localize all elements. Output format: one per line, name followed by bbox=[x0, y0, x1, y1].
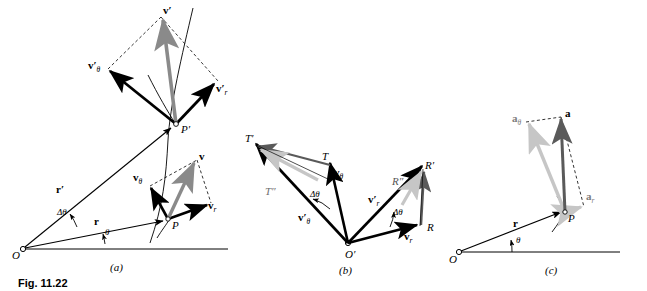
panel-a-label-origin: O bbox=[12, 250, 20, 261]
panel-a-p-parallelogram-dash-2 bbox=[197, 160, 211, 203]
panel-c-label-vector-a-theta: aθ bbox=[512, 113, 521, 127]
panel-b-label-r-double-prime: R″ bbox=[392, 176, 403, 187]
panel-a-label-vector-v-r: vr bbox=[208, 200, 216, 214]
panel-a-angle-delta-theta-arc bbox=[70, 214, 77, 227]
panel-a-p-tangent-tick bbox=[157, 220, 169, 238]
panel-a-point-pprime-marker bbox=[174, 122, 179, 127]
panel-a-vector-v-prime-theta bbox=[110, 71, 176, 124]
panel-b-label-t: T bbox=[322, 151, 328, 162]
panel-c-label-vector-a: a bbox=[565, 108, 571, 119]
panel-a-label-point-p-prime: P′ bbox=[181, 124, 190, 135]
panel-c-caption: (c) bbox=[545, 265, 557, 276]
panel-c-angle-theta-arc bbox=[511, 240, 512, 252]
panel-a-vector-v-prime-r bbox=[176, 84, 214, 124]
panel-a-label-vector-v-prime-r: v′r bbox=[216, 83, 228, 97]
panel-a-vector-v-theta bbox=[151, 188, 168, 219]
panel-c-label-origin: O bbox=[449, 254, 457, 265]
panel-b-label-angle-delta-theta-left: Δθ bbox=[310, 190, 320, 199]
panel-b-label-vector-v-r: vr bbox=[404, 231, 412, 245]
panel-a-caption: (a) bbox=[110, 262, 123, 273]
figure-caption: Fig. 11.22 bbox=[18, 277, 68, 289]
panel-c-label-angle-theta: θ bbox=[516, 236, 520, 245]
panel-b-label-angle-delta-theta-right: Δθ bbox=[393, 208, 403, 217]
panel-a-vector-r-prime bbox=[25, 128, 171, 247]
panel-c-label-point-p: P bbox=[568, 213, 575, 224]
panel-a-pprime-parallelogram-dash-1 bbox=[108, 17, 161, 69]
panel-b-label-vector-v-prime-r: v′r bbox=[368, 194, 380, 208]
panel-b-label-t-prime: T′ bbox=[245, 133, 254, 144]
panel-a-vector-v-prime bbox=[163, 20, 176, 124]
panel-c-vector-a-theta bbox=[529, 124, 565, 212]
panel-a-label-point-p: P bbox=[172, 220, 179, 231]
panel-a-label-vector-v-theta: vθ bbox=[133, 172, 142, 186]
panel-a-label-vector-r: r bbox=[94, 216, 99, 227]
panel-a-label-angle-theta: θ bbox=[105, 228, 109, 237]
panel-b-label-vector-v-prime-theta: v′θ bbox=[298, 212, 310, 226]
panel-b-caption: (b) bbox=[339, 265, 352, 276]
panel-b-label-t-double-prime: T″ bbox=[265, 186, 276, 197]
panel-c-vector-a bbox=[561, 119, 565, 212]
panel-c-parallelogram-dash-1 bbox=[526, 117, 561, 122]
panel-a-point-p-marker bbox=[166, 217, 170, 221]
panel-c-origin-marker bbox=[456, 249, 461, 254]
panel-b-label-r-prime: R′ bbox=[425, 160, 434, 171]
panel-a-label-angle-delta-theta: Δθ bbox=[57, 208, 67, 217]
panel-b-label-r: R bbox=[427, 222, 434, 233]
panel-a-label-vector-v-prime-theta: v′θ bbox=[88, 60, 100, 74]
panel-c-vector-r bbox=[461, 212, 561, 251]
panel-c bbox=[456, 117, 620, 255]
panel-a-label-vector-r-prime: r′ bbox=[56, 184, 64, 195]
figure-11-22-diagram bbox=[0, 0, 647, 291]
panel-c-point-p-marker bbox=[563, 210, 567, 214]
panel-b-label-origin-prime: O′ bbox=[345, 249, 355, 260]
panel-a-label-vector-v-prime: v′ bbox=[163, 5, 172, 16]
panel-b bbox=[256, 144, 424, 246]
panel-c-label-vector-r: r bbox=[513, 218, 518, 229]
panel-a-label-vector-v: v bbox=[199, 151, 205, 162]
panel-a-origin-marker bbox=[20, 246, 25, 251]
panel-b-label-vector-v-theta: vθ bbox=[334, 167, 343, 181]
panel-a bbox=[20, 8, 228, 252]
panel-c-label-vector-a-r: ar bbox=[586, 191, 594, 205]
